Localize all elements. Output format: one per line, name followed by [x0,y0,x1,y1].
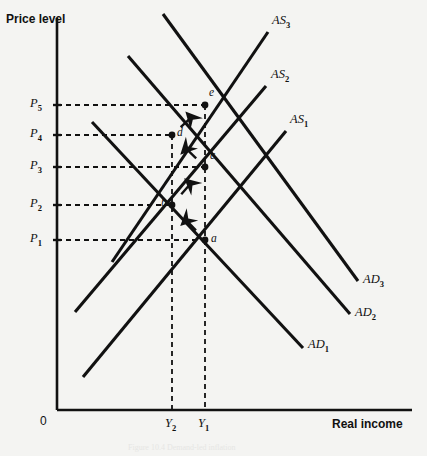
ad-curve-label-AD2: AD2 [355,305,376,322]
equilibrium-dot-a [202,237,209,244]
price-tick-label-P5: P5 [30,96,42,113]
equilibrium-point-label-c: c [210,149,215,161]
x-axis-title: Real income [332,417,403,431]
diagram-canvas [0,0,427,456]
equilibrium-dot-b [169,202,176,209]
equilibrium-point-label-b: b [161,196,167,208]
axis-lines [57,18,412,410]
as-curve-label-AS2: AS2 [271,67,289,84]
equilibrium-dot-d [169,132,176,139]
price-tick-label-P3: P3 [30,158,42,175]
figure-caption: Figure 10.4 Demand-led inflation [128,443,236,452]
income-tick-label-Y2: Y2 [165,416,176,433]
ad-curve-label-AD3: AD3 [363,272,384,289]
price-tick-label-P1: P1 [30,231,42,248]
equilibrium-point-label-d: d [177,126,183,138]
equilibrium-dot-c [202,164,209,171]
price-tick-label-P4: P4 [30,126,42,143]
equilibrium-point-label-a: a [211,232,217,244]
as-curve-label-AS1: AS1 [290,112,308,129]
as-curve-label-AS3: AS3 [272,13,290,30]
origin-label: 0 [40,414,47,428]
ad-curve-label-AD1: AD1 [308,337,329,354]
equilibrium-dot-e [202,102,209,109]
y-axis-title: Price level [6,12,65,26]
income-tick-label-Y1: Y1 [198,416,209,433]
aggregate-demand-curves [92,14,358,348]
ad-curve-1 [92,122,303,348]
ad-curve-3 [163,14,358,281]
ad-curve-2 [128,56,350,314]
economics-diagram: Price level Real income 0 P1P2P3P4P5Y2Y1… [0,0,427,456]
path-arrow-c-to-d [186,149,196,159]
price-tick-label-P2: P2 [30,196,42,213]
equilibrium-point-label-e: e [209,86,214,98]
